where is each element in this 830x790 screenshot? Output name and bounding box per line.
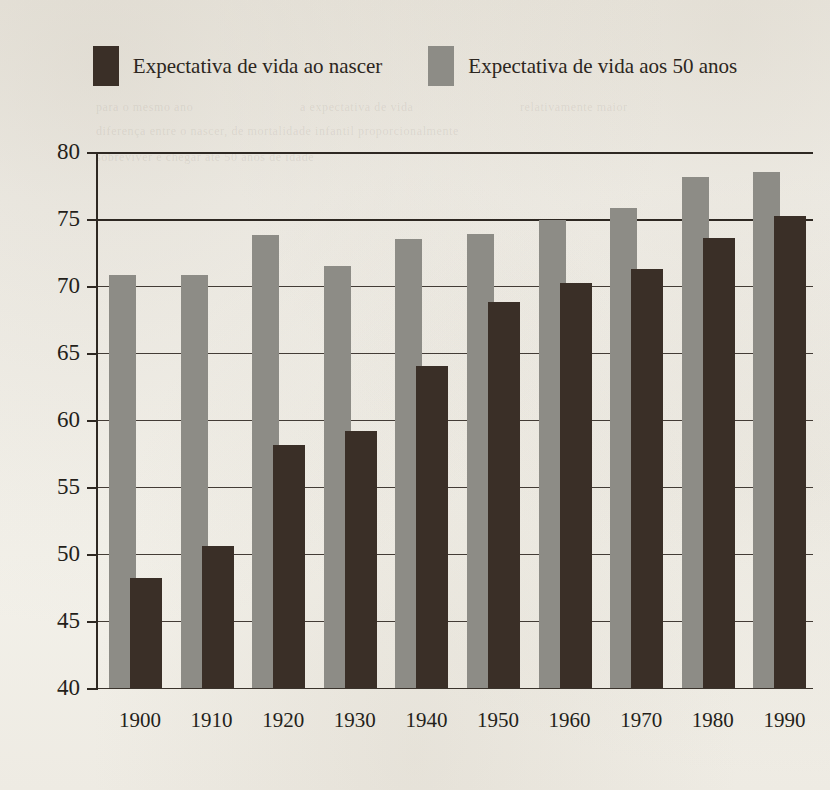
y-axis-label-65: 65 — [57, 340, 80, 366]
bar-at-birth-1960 — [560, 283, 592, 688]
chart-page: para o mesmo anoa expectativa de vidarel… — [0, 0, 830, 790]
bar-at-birth-1970 — [631, 269, 663, 688]
showthrough-line: diferença entre o nascer, de mortalidade… — [96, 124, 459, 139]
bar-group-1910 — [169, 152, 241, 688]
x-axis-label-1920: 1920 — [262, 708, 304, 733]
legend-label-at_50: Expectativa de vida aos 50 anos — [468, 56, 737, 77]
chart-legend: Expectativa de vida ao nascerExpectativa… — [0, 44, 830, 88]
x-axis-label-1900: 1900 — [119, 708, 161, 733]
bar-group-1920 — [240, 152, 312, 688]
bar-at-birth-1980 — [703, 238, 735, 688]
bar-at-birth-1900 — [130, 578, 162, 688]
bar-group-1980 — [670, 152, 742, 688]
bar-group-1960 — [527, 152, 599, 688]
legend-item-at_50: Expectativa de vida aos 50 anos — [428, 46, 737, 86]
bar-group-1950 — [455, 152, 527, 688]
gridline-40 — [97, 688, 813, 689]
y-axis-label-50: 50 — [57, 541, 80, 567]
y-axis-label-40: 40 — [57, 675, 80, 701]
bar-group-1990 — [741, 152, 813, 688]
legend-label-at_birth: Expectativa de vida ao nascer — [133, 56, 383, 77]
x-axis-label-1930: 1930 — [334, 708, 376, 733]
x-axis-label-1980: 1980 — [692, 708, 734, 733]
y-axis-label-75: 75 — [57, 206, 80, 232]
bar-at-birth-1950 — [488, 302, 520, 688]
legend-swatch-at_birth — [93, 46, 119, 86]
y-tick-mark-40 — [87, 688, 98, 690]
bar-group-1930 — [312, 152, 384, 688]
plot-area: 404550556065707580 190019101920193019401… — [97, 152, 813, 688]
showthrough-line: a expectativa de vida — [300, 100, 414, 115]
legend-item-at_birth: Expectativa de vida ao nascer — [93, 46, 383, 86]
y-axis-label-70: 70 — [57, 273, 80, 299]
showthrough-line: para o mesmo ano — [96, 100, 193, 115]
bar-group-1900 — [97, 152, 169, 688]
y-axis-label-60: 60 — [57, 407, 80, 433]
y-axis-label-45: 45 — [57, 608, 80, 634]
x-axis-label-1950: 1950 — [477, 708, 519, 733]
y-axis-label-80: 80 — [57, 139, 80, 165]
x-axis-label-1990: 1990 — [763, 708, 805, 733]
x-axis-label-1910: 1910 — [191, 708, 233, 733]
bar-at-birth-1940 — [416, 366, 448, 688]
bar-at-birth-1930 — [345, 431, 377, 688]
bar-group-1940 — [383, 152, 455, 688]
bar-at-birth-1920 — [273, 445, 305, 688]
x-axis-label-1960: 1960 — [549, 708, 591, 733]
showthrough-line: relativamente maior — [520, 100, 628, 115]
bar-group-1970 — [598, 152, 670, 688]
y-axis-label-55: 55 — [57, 474, 80, 500]
x-axis-label-1970: 1970 — [620, 708, 662, 733]
x-axis-label-1940: 1940 — [405, 708, 447, 733]
bar-at-birth-1910 — [202, 546, 234, 688]
legend-swatch-at_50 — [428, 46, 454, 86]
bar-at-birth-1990 — [774, 216, 806, 688]
